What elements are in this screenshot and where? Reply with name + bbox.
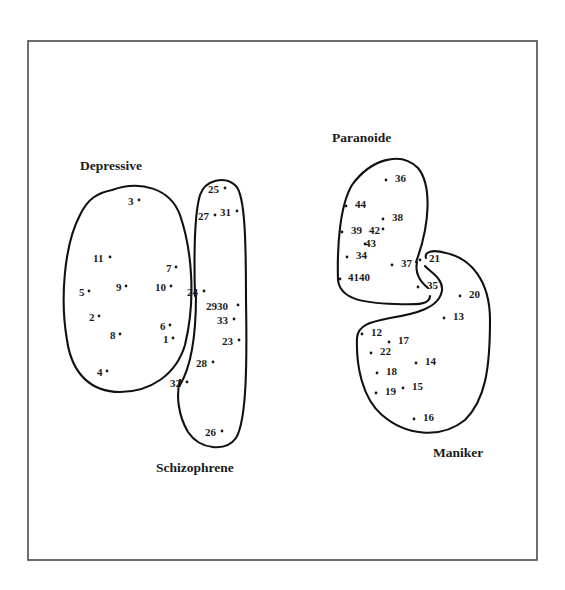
point-marker	[382, 228, 385, 231]
data-point: 19	[375, 385, 397, 397]
point-label: 28	[196, 357, 208, 369]
point-marker	[339, 278, 342, 281]
group-label-paranoide: Paranoide	[332, 130, 391, 145]
point-label: 19	[385, 385, 397, 397]
point-marker	[388, 341, 391, 344]
point-label: 20	[469, 288, 481, 300]
point-marker	[376, 372, 379, 375]
point-label: 42	[369, 224, 381, 236]
point-marker	[341, 231, 344, 234]
group-label-maniker: Maniker	[433, 445, 483, 460]
data-point: 33	[217, 314, 235, 326]
data-point: 15	[402, 380, 424, 392]
data-point: 31	[220, 206, 238, 218]
figure-frame	[28, 41, 537, 560]
point-marker	[172, 337, 175, 340]
point-label: 16	[423, 411, 435, 423]
point-marker	[417, 286, 420, 289]
point-label: 24	[187, 286, 199, 298]
point-label: 15	[412, 380, 424, 392]
point-label: 4	[97, 366, 103, 378]
point-label: 6	[160, 320, 166, 332]
data-point: 1	[163, 333, 174, 345]
point-marker	[364, 243, 367, 246]
point-label: 2930	[206, 300, 229, 312]
point-label: 23	[222, 335, 234, 347]
data-point: 25	[208, 183, 226, 195]
point-label: 18	[386, 365, 398, 377]
data-point: 22	[370, 345, 392, 357]
point-label: 43	[365, 237, 377, 249]
point-label: 4140	[348, 271, 371, 283]
data-point: 16	[413, 411, 435, 423]
point-label: 27	[198, 210, 210, 222]
point-label: 36	[395, 172, 407, 184]
data-point: 6	[160, 320, 171, 332]
point-label: 9	[116, 281, 122, 293]
point-marker	[233, 318, 236, 321]
point-marker	[385, 179, 388, 182]
point-label: 8	[110, 329, 116, 341]
point-label: 35	[427, 279, 439, 291]
data-point: 20	[459, 288, 481, 300]
point-marker	[346, 256, 349, 259]
point-label: 14	[425, 355, 437, 367]
data-point: 28	[196, 357, 214, 369]
point-label: 25	[208, 183, 220, 195]
point-marker	[419, 259, 422, 262]
point-label: 33	[217, 314, 229, 326]
point-marker	[402, 387, 405, 390]
point-marker	[415, 362, 418, 365]
point-marker	[237, 304, 240, 307]
point-marker	[106, 370, 109, 373]
point-label: 1	[163, 333, 169, 345]
data-point: 44	[345, 198, 367, 210]
point-marker	[169, 324, 172, 327]
point-marker	[203, 290, 206, 293]
schizophrene-cluster-outline	[178, 180, 246, 447]
data-point: 4140	[339, 271, 371, 283]
data-point: 7	[166, 262, 177, 274]
maniker-cluster-outline	[357, 251, 490, 433]
point-marker	[221, 430, 224, 433]
data-point: 10	[155, 281, 172, 293]
point-marker	[238, 339, 241, 342]
point-label: 37	[401, 257, 413, 269]
data-point: 3	[128, 195, 140, 207]
data-point: 21	[419, 252, 440, 264]
point-label: 5	[79, 286, 85, 298]
data-point: 12	[361, 326, 383, 338]
point-marker	[413, 418, 416, 421]
point-marker	[236, 210, 239, 213]
data-point: 2930	[206, 300, 239, 312]
data-point: 8	[110, 329, 121, 341]
data-point: 34	[346, 249, 368, 261]
point-marker	[361, 333, 364, 336]
point-label: 38	[392, 211, 404, 223]
point-marker	[212, 361, 215, 364]
point-marker	[345, 205, 348, 208]
point-label: 22	[380, 345, 392, 357]
data-point: 23	[222, 335, 240, 347]
data-point: 14	[415, 355, 437, 367]
point-marker	[98, 315, 101, 318]
point-label: 3	[128, 195, 134, 207]
point-marker	[459, 295, 462, 298]
point-label: 12	[371, 326, 383, 338]
point-marker	[186, 381, 189, 384]
point-label: 32	[170, 377, 182, 389]
point-label: 11	[93, 252, 103, 264]
data-point: 9	[116, 281, 127, 293]
group-label-depressive: Depressive	[80, 158, 142, 173]
data-point: 18	[376, 365, 398, 377]
point-label: 26	[205, 426, 217, 438]
point-label: 34	[356, 249, 368, 261]
schizophrene-cluster-inner-edge	[180, 296, 196, 385]
data-points: 3117591028614252731242930332328322636443…	[79, 172, 481, 438]
group-label-schizophrene: Schizophrene	[156, 460, 234, 475]
data-point: 27	[198, 210, 216, 222]
point-marker	[125, 285, 128, 288]
data-point: 26	[205, 426, 223, 438]
data-point: 42	[369, 224, 384, 236]
data-point: 13	[443, 310, 465, 322]
